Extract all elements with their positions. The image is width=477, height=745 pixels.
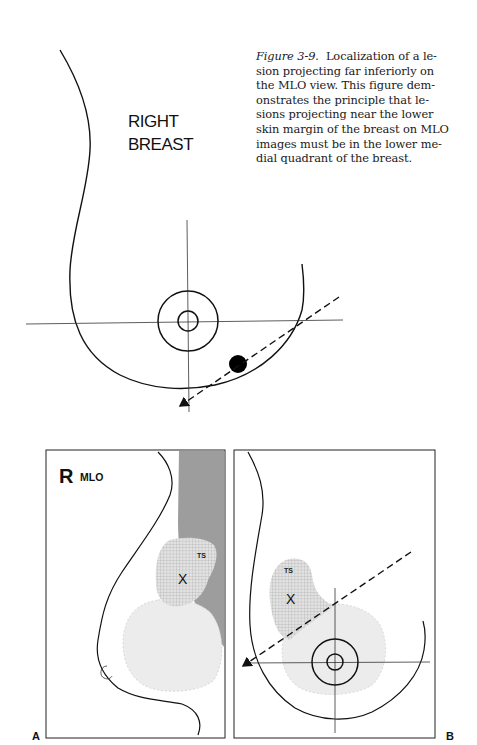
panel-b-ts-label: TS [284,567,293,574]
view-label-mlo: MLO [80,471,103,483]
panel-a: R MLO TS X A [32,450,225,742]
fibroglandular-region [123,599,222,691]
panel-a-lesion-x: X [178,571,188,587]
crosshair-vertical [187,220,189,412]
panel-b-letter: B [446,730,454,742]
top-breast-diagram [26,50,343,412]
panel-a-ts-label: TS [197,552,206,559]
lesion-dot [229,355,247,373]
panel-b-lesion-x: X [286,591,296,607]
side-letter-r: R [59,465,74,487]
panel-b: TS X B [234,450,454,742]
crosshair-horizontal [26,320,343,324]
breast-outline [60,50,304,388]
projection-arrow [180,297,339,406]
figure-canvas: R MLO TS X A TS X B [0,0,477,745]
panel-a-letter: A [32,730,40,742]
